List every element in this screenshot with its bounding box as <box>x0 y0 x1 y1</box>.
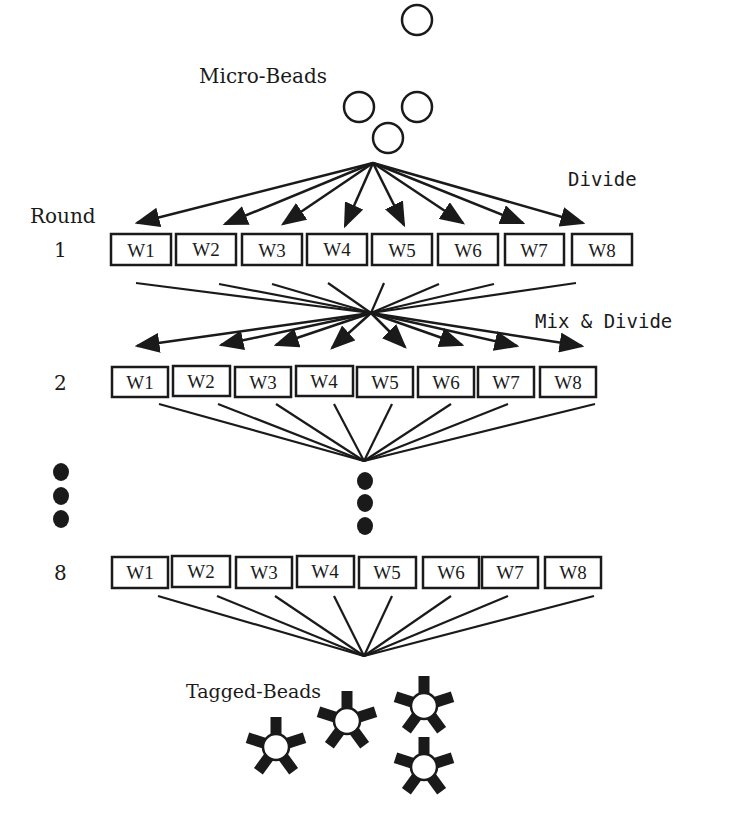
split-pool-diagram: Micro-Beads Divide Round 1 2 8 W1 W2 W3 … <box>0 0 747 827</box>
round-number: 8 <box>54 561 67 585</box>
divide-arrows <box>137 163 583 226</box>
well-label: W7 <box>492 372 519 393</box>
well-label: W7 <box>496 562 523 583</box>
well-label: W1 <box>126 562 153 583</box>
round-number: 1 <box>54 238 67 262</box>
round-number: 2 <box>54 371 67 395</box>
tagged-bead-icon <box>394 737 454 795</box>
round-8-wells <box>112 556 601 588</box>
micro-bead-icon <box>402 92 432 122</box>
round-8-well-labels: W1 W2 W3 W4 W5 W6 W7 W8 <box>126 561 586 583</box>
well-label: W8 <box>554 372 581 393</box>
well-label: W6 <box>437 562 464 583</box>
micro-bead-icon <box>344 92 374 122</box>
well-label: W4 <box>311 561 339 582</box>
well-label: W2 <box>187 371 214 392</box>
well-label: W7 <box>520 240 547 261</box>
round-2-pool-lines <box>159 404 595 461</box>
well-label: W3 <box>249 372 276 393</box>
tagged-bead-icon <box>394 676 454 734</box>
well-label: W2 <box>192 239 219 260</box>
well-label: W8 <box>559 562 586 583</box>
mix-divide-arrows <box>137 313 582 348</box>
divide-label: Divide <box>568 168 637 190</box>
mix-lines <box>136 283 576 313</box>
well-label: W3 <box>250 562 277 583</box>
micro-beads-group <box>344 5 432 153</box>
well-label: W5 <box>371 372 398 393</box>
tagged-bead-icon <box>317 691 377 749</box>
micro-bead-icon <box>373 123 403 153</box>
round-8-pool-lines <box>158 596 594 656</box>
well-label: W1 <box>126 372 153 393</box>
tagged-bead-icon <box>246 717 306 775</box>
well-label: W6 <box>454 240 481 261</box>
well-label: W3 <box>258 240 285 261</box>
mix-divide-label: Mix & Divide <box>535 310 672 332</box>
well-label: W5 <box>388 240 415 261</box>
well-label: W4 <box>323 239 351 260</box>
round-header: Round <box>30 204 96 228</box>
well-label: W5 <box>373 562 400 583</box>
micro-bead-icon <box>402 5 432 35</box>
well-label: W2 <box>187 561 214 582</box>
well-label: W8 <box>588 240 615 261</box>
round-2-wells <box>112 366 596 397</box>
well-label: W1 <box>127 240 154 261</box>
micro-beads-label: Micro-Beads <box>199 64 327 88</box>
round-1-wells <box>111 234 632 265</box>
well-label: W4 <box>310 371 338 392</box>
ellipsis-left-icon <box>53 463 69 528</box>
well-label: W6 <box>432 372 459 393</box>
tagged-beads-label: Tagged-Beads <box>186 680 321 702</box>
ellipsis-center-icon <box>357 472 373 535</box>
